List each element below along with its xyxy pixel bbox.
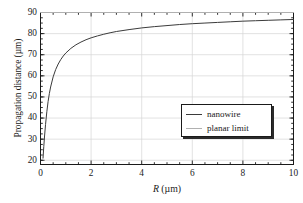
x-tick-label: 6	[190, 169, 195, 178]
chart-legend[interactable]: nanowire planar limit	[181, 104, 272, 137]
legend-label-planar-limit: planar limit	[207, 124, 249, 133]
x-tick-label: 10	[289, 169, 298, 178]
plot-frame	[41, 13, 294, 165]
x-axis-label-unit: (µm)	[159, 183, 181, 194]
legend-swatch-planar-limit	[186, 128, 202, 129]
legend-item-planar-limit[interactable]: planar limit	[182, 121, 271, 135]
plot-area	[0, 0, 303, 203]
legend-swatch-nanowire	[186, 114, 202, 115]
axis-ticks	[41, 13, 294, 165]
x-tick-label: 2	[89, 169, 94, 178]
x-tick-label: 8	[241, 169, 246, 178]
x-axis-label: R (µm)	[40, 183, 294, 194]
series-line-nanowire	[43, 19, 293, 158]
legend-label-nanowire: nanowire	[207, 110, 241, 119]
figure-container: Propagation distance (µm) 20304050607080…	[0, 0, 303, 203]
grid-lines	[41, 13, 294, 165]
legend-item-nanowire[interactable]: nanowire	[182, 107, 271, 121]
x-tick-label: 0	[38, 169, 43, 178]
x-tick-label: 4	[139, 169, 144, 178]
